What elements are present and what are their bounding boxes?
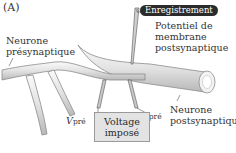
postsynaptic-leader <box>177 95 180 101</box>
v-pre-label: Vpré <box>66 115 86 127</box>
recording-badge: Enregistrement <box>140 5 218 16</box>
voltage-clamp-box: Voltage imposé <box>94 112 150 142</box>
presynaptic-label: Neurone présynaptique <box>6 35 75 57</box>
postsynaptic-potential-label: Potentiel de membrane postsynaptique <box>155 20 228 53</box>
presynaptic-leader <box>9 58 13 66</box>
postsynaptic-neuron-label: Neurone postsynaptique <box>170 104 236 126</box>
v-pre-electrode <box>97 80 106 113</box>
recording-electrode <box>131 8 142 64</box>
i-pre-electrode <box>128 80 146 113</box>
panel-label: (A) <box>3 2 20 13</box>
